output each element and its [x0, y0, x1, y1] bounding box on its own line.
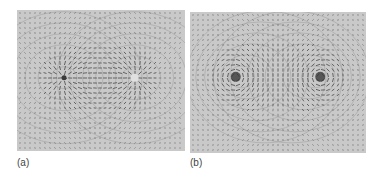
panel-b-vortex-pair-field	[190, 12, 366, 153]
panel-b-label: (b)	[190, 157, 202, 168]
magnetic-field-plot	[190, 12, 366, 153]
panel-a-label: (a)	[17, 157, 29, 168]
panel-a-electric-dipole-field	[17, 10, 185, 151]
electric-field-plot	[17, 10, 185, 151]
